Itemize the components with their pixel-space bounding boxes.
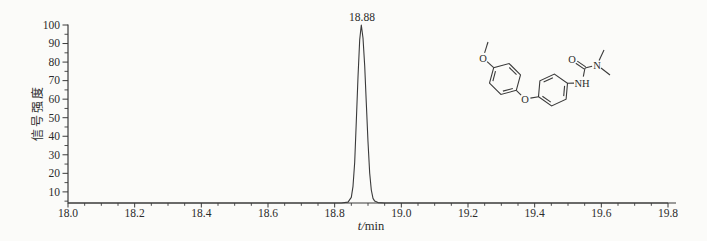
bond xyxy=(585,66,592,68)
y-tick-label: 40 xyxy=(49,130,61,142)
bond xyxy=(485,42,488,53)
x-tick-label: 19.0 xyxy=(391,207,411,219)
aromatic-double-bond xyxy=(503,89,513,92)
chemical-structure: OOONHN xyxy=(428,13,628,128)
aromatic-double-bond xyxy=(564,86,565,96)
atom-label-methoxy-o: O xyxy=(479,53,487,64)
y-tick-label: 60 xyxy=(49,93,61,105)
x-tick-label: 18.4 xyxy=(191,207,211,219)
chromatogram-figure: 18.018.218.418.618.819.019.219.419.619.8… xyxy=(0,0,707,241)
y-tick-label: 30 xyxy=(49,149,61,161)
benzene-ring-anilide xyxy=(539,74,568,106)
benzene-ring-methoxyphenyl xyxy=(490,64,521,95)
peak-retention-time-label: 18.88 xyxy=(349,11,375,23)
bond xyxy=(530,97,538,98)
aromatic-double-bond xyxy=(509,68,516,75)
x-tick-label: 19.8 xyxy=(658,207,678,219)
x-axis-title: t/min xyxy=(358,219,384,234)
y-tick-label: 80 xyxy=(49,56,61,68)
bond xyxy=(487,62,494,68)
y-tick-label: 100 xyxy=(43,19,61,31)
aromatic-double-bond xyxy=(542,96,550,102)
y-axis-title: 信号强度 xyxy=(28,85,46,141)
x-tick-label: 18.6 xyxy=(258,207,278,219)
y-tick-label: 50 xyxy=(49,112,61,124)
x-tick-label: 18.8 xyxy=(325,207,345,219)
x-tick-label: 19.6 xyxy=(591,207,611,219)
atom-label-ether-o: O xyxy=(521,94,529,105)
carbonyl-double-bond xyxy=(576,63,585,69)
aromatic-double-bond xyxy=(493,71,496,81)
atom-label-urea-n: N xyxy=(593,60,601,71)
y-tick-label: 90 xyxy=(49,37,61,49)
y-tick-label: 20 xyxy=(49,167,61,179)
y-tick-label: 70 xyxy=(49,74,61,86)
bond xyxy=(601,68,610,75)
x-tick-label: 18.0 xyxy=(58,207,78,219)
x-tick-label: 19.2 xyxy=(458,207,478,219)
y-tick-label: 10 xyxy=(49,186,61,198)
atom-label-urea-nh: NH xyxy=(574,78,590,89)
x-tick-label: 18.2 xyxy=(125,207,145,219)
x-tick-label: 19.4 xyxy=(525,207,545,219)
atom-label-carbonyl-o: O xyxy=(568,54,576,65)
carbonyl-double-bond xyxy=(577,61,585,67)
